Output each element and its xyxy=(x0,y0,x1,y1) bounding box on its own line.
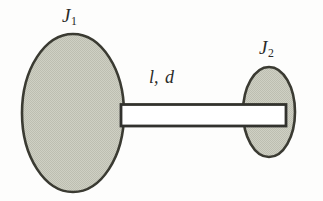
connecting-shaft xyxy=(121,105,286,127)
left-inertia-label-symbol: J xyxy=(62,5,70,26)
shaft-diameter-symbol: d xyxy=(165,67,174,87)
shaft-length-diameter-label: l, d xyxy=(149,68,174,86)
shaft-label-separator: , xyxy=(154,67,161,87)
schematic-drawing xyxy=(0,0,323,201)
right-inertia-label-symbol: J xyxy=(259,37,267,58)
left-inertia-label: J1 xyxy=(62,6,76,25)
left-inertia-disc xyxy=(22,34,124,192)
left-inertia-label-subscript: 1 xyxy=(71,15,77,28)
right-inertia-label-subscript: 2 xyxy=(268,47,274,60)
right-inertia-label: J2 xyxy=(259,38,273,57)
figure-container: J1 J2 l, d xyxy=(0,0,323,201)
